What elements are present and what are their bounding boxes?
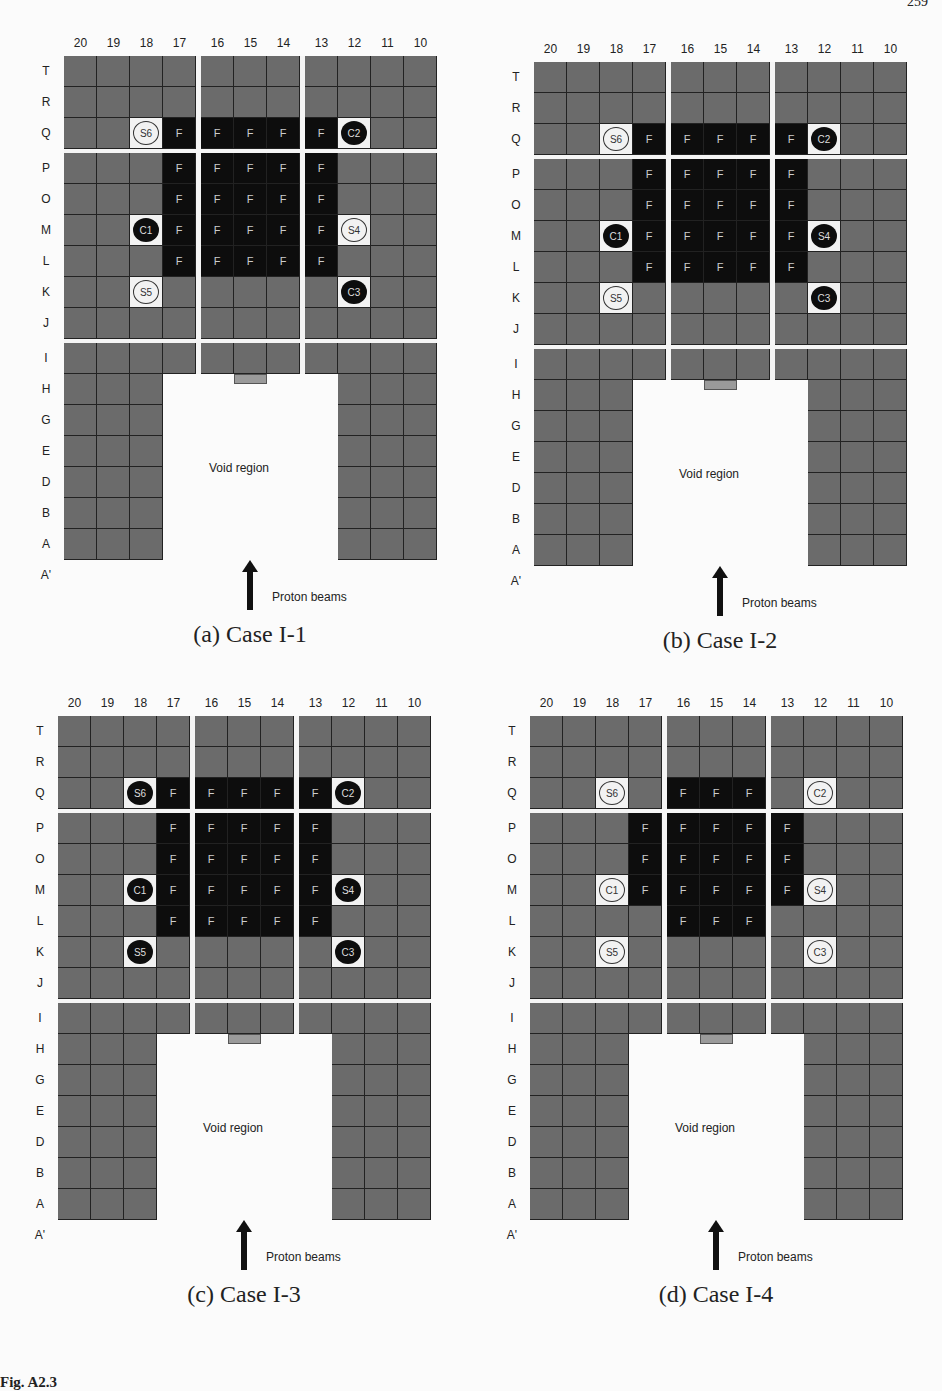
reflector-cell bbox=[398, 1065, 431, 1096]
irradiation-position[interactable]: C3 bbox=[338, 277, 371, 308]
column-label: 16 bbox=[667, 696, 700, 710]
reflector-cell bbox=[371, 436, 404, 467]
reflector-cell bbox=[163, 87, 196, 118]
fuel-cell: F bbox=[163, 215, 196, 246]
reflector-cell bbox=[371, 529, 404, 560]
fuel-label: F bbox=[700, 853, 732, 865]
fuel-label: F bbox=[305, 162, 337, 174]
row-label: G bbox=[508, 419, 524, 433]
irradiation-position[interactable]: S6 bbox=[596, 778, 629, 809]
irradiation-position[interactable]: C2 bbox=[338, 118, 371, 149]
reflector-cell bbox=[267, 308, 300, 339]
fuel-cell: F bbox=[201, 246, 234, 277]
fuel-label: F bbox=[195, 884, 227, 896]
position-marker-s6: S6 bbox=[599, 781, 625, 805]
reflector-cell bbox=[64, 153, 97, 184]
fuel-label: F bbox=[261, 787, 293, 799]
irradiation-position[interactable]: C1 bbox=[130, 215, 163, 246]
irradiation-position[interactable]: C3 bbox=[332, 937, 365, 968]
reflector-cell bbox=[671, 283, 704, 314]
reflector-cell bbox=[600, 62, 633, 93]
reflector-cell bbox=[332, 1065, 365, 1096]
irradiation-position[interactable]: S6 bbox=[124, 778, 157, 809]
reflector-cell bbox=[874, 442, 907, 473]
fuel-label: F bbox=[667, 822, 699, 834]
reflector-cell bbox=[371, 153, 404, 184]
reflector-cell bbox=[261, 1003, 294, 1034]
reflector-cell bbox=[530, 1003, 563, 1034]
reflector-cell bbox=[837, 968, 870, 999]
reflector-cell bbox=[804, 1158, 837, 1189]
water-gap bbox=[300, 56, 305, 374]
reflector-cell bbox=[534, 504, 567, 535]
reflector-cell bbox=[667, 716, 700, 747]
reflector-cell bbox=[163, 308, 196, 339]
reflector-cell bbox=[398, 1127, 431, 1158]
reflector-cell bbox=[874, 411, 907, 442]
reflector-cell bbox=[534, 190, 567, 221]
reflector-cell bbox=[530, 875, 563, 906]
reflector-cell bbox=[228, 1003, 261, 1034]
reflector-cell bbox=[163, 56, 196, 87]
irradiation-position[interactable]: S5 bbox=[596, 937, 629, 968]
irradiation-position[interactable]: S4 bbox=[332, 875, 365, 906]
irradiation-position[interactable]: C1 bbox=[124, 875, 157, 906]
irradiation-position[interactable]: S5 bbox=[130, 277, 163, 308]
irradiation-position[interactable]: S4 bbox=[808, 221, 841, 252]
reflector-cell bbox=[804, 747, 837, 778]
irradiation-position[interactable]: C1 bbox=[600, 221, 633, 252]
reflector-cell bbox=[404, 215, 437, 246]
reflector-cell bbox=[567, 124, 600, 155]
fuel-cell: F bbox=[775, 221, 808, 252]
row-label: P bbox=[32, 821, 48, 835]
reflector-cell bbox=[332, 1003, 365, 1034]
irradiation-position[interactable]: S6 bbox=[130, 118, 163, 149]
position-marker-c3: C3 bbox=[341, 280, 367, 304]
reflector-cell bbox=[365, 1034, 398, 1065]
reflector-cell bbox=[338, 374, 371, 405]
irradiation-position[interactable]: C3 bbox=[804, 937, 837, 968]
irradiation-position[interactable]: C1 bbox=[596, 875, 629, 906]
reflector-cell bbox=[58, 937, 91, 968]
fuel-label: F bbox=[163, 127, 195, 139]
irradiation-position[interactable]: C3 bbox=[808, 283, 841, 314]
fuel-label: F bbox=[671, 261, 703, 273]
fuel-label: F bbox=[733, 787, 765, 799]
fuel-label: F bbox=[299, 787, 331, 799]
reflector-cell bbox=[733, 716, 766, 747]
fuel-cell: F bbox=[737, 252, 770, 283]
reflector-cell bbox=[870, 1065, 903, 1096]
reflector-cell bbox=[870, 906, 903, 937]
reflector-cell bbox=[163, 343, 196, 374]
reflector-cell bbox=[563, 937, 596, 968]
irradiation-position[interactable]: S5 bbox=[124, 937, 157, 968]
reflector-cell bbox=[808, 190, 841, 221]
position-marker-c2: C2 bbox=[807, 781, 833, 805]
reflector-cell bbox=[667, 747, 700, 778]
row-label: R bbox=[508, 101, 524, 115]
reflector-cell bbox=[299, 968, 332, 999]
position-marker-s6: S6 bbox=[603, 127, 629, 151]
irradiation-position[interactable]: S4 bbox=[804, 875, 837, 906]
fuel-label: F bbox=[195, 822, 227, 834]
reflector-cell bbox=[404, 153, 437, 184]
fuel-cell: F bbox=[305, 153, 338, 184]
reflector-cell bbox=[371, 118, 404, 149]
fuel-cell: F bbox=[671, 159, 704, 190]
reflector-cell bbox=[563, 1158, 596, 1189]
reflector-cell bbox=[808, 380, 841, 411]
reflector-cell bbox=[124, 906, 157, 937]
reflector-cell bbox=[365, 778, 398, 809]
column-label: 10 bbox=[404, 36, 437, 50]
column-label: 20 bbox=[534, 42, 567, 56]
irradiation-position[interactable]: C2 bbox=[804, 778, 837, 809]
irradiation-position[interactable]: C2 bbox=[808, 124, 841, 155]
irradiation-position[interactable]: C2 bbox=[332, 778, 365, 809]
irradiation-position[interactable]: S4 bbox=[338, 215, 371, 246]
irradiation-position[interactable]: S6 bbox=[600, 124, 633, 155]
fuel-label: F bbox=[228, 884, 260, 896]
reflector-cell bbox=[64, 118, 97, 149]
proton-beam-arrow-icon bbox=[717, 576, 723, 616]
reflector-cell bbox=[870, 1003, 903, 1034]
irradiation-position[interactable]: S5 bbox=[600, 283, 633, 314]
